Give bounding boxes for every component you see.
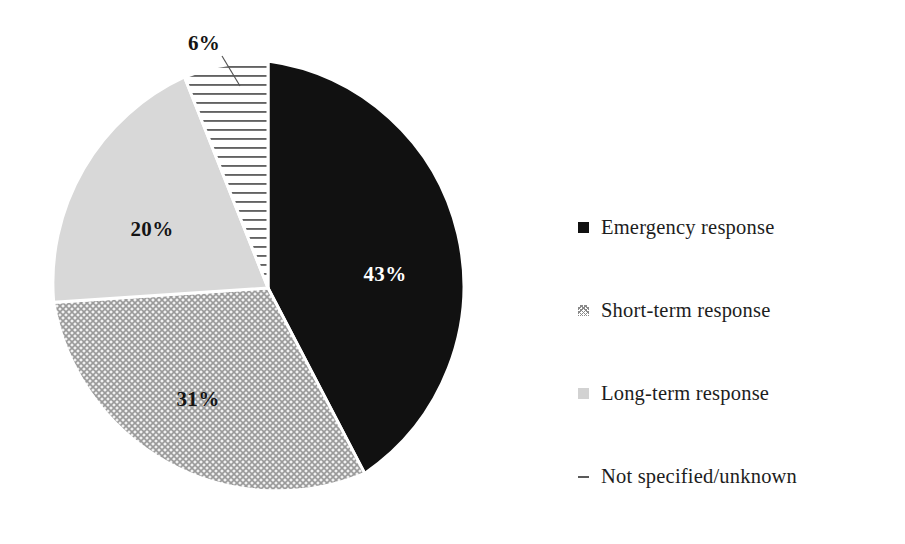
legend-label-short-term-response: Short-term response — [601, 300, 770, 321]
legend-label-emergency-response: Emergency response — [601, 217, 774, 238]
slice-value-short-term-response: 31% — [177, 387, 220, 412]
slice-value-long-term-response: 20% — [131, 217, 174, 242]
solid-black-swatch-icon — [578, 222, 589, 233]
legend-item-short-term-response[interactable]: Short-term response — [578, 269, 898, 352]
legend-label-long-term-response: Long-term response — [601, 383, 769, 404]
pie-chart: 43% 31% 20% 6% Emergency response Short-… — [0, 0, 905, 544]
slice-value-emergency-response: 43% — [364, 262, 407, 287]
legend-label-not-specified-unknown: Not specified/unknown — [601, 466, 797, 487]
cross-hatch-swatch-icon — [578, 305, 589, 316]
slice-value-not-specified-unknown: 6% — [188, 31, 220, 56]
light-gray-swatch-icon — [578, 388, 589, 399]
legend-item-not-specified-unknown[interactable]: Not specified/unknown — [578, 435, 898, 518]
chart-legend: Emergency response Short-term response L… — [578, 186, 898, 518]
legend-item-long-term-response[interactable]: Long-term response — [578, 352, 898, 435]
legend-item-emergency-response[interactable]: Emergency response — [578, 186, 898, 269]
dash-swatch-icon — [578, 471, 589, 482]
